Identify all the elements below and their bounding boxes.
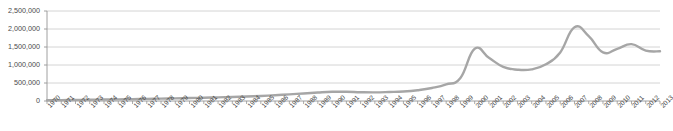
x-axis-tick-labels: 1970197119721973197419751976197719781979… (47, 101, 673, 131)
plot-area (47, 11, 660, 101)
gridlines (47, 11, 660, 83)
y-axis-tick-label: 1,000,000 (0, 61, 40, 69)
y-axis-tick-label: 500,000 (0, 79, 40, 87)
y-axis-tick-label: 1,500,000 (0, 43, 40, 51)
axis-lines (44, 11, 660, 101)
y-axis-tick-label: 2,000,000 (0, 25, 40, 33)
y-axis-tick-label: 2,500,000 (0, 7, 40, 15)
y-axis-tick-label: 0 (0, 97, 40, 105)
clipped-title-remnant (0, 0, 673, 5)
data-series-line (47, 26, 660, 100)
line-chart-figure: 2,500,0002,000,0001,500,0001,000,000500,… (0, 0, 673, 131)
chart-canvas (47, 11, 660, 101)
y-axis-tick-labels: 2,500,0002,000,0001,500,0001,000,000500,… (0, 0, 46, 131)
x-axis-tick-label: 2013 (659, 94, 673, 109)
